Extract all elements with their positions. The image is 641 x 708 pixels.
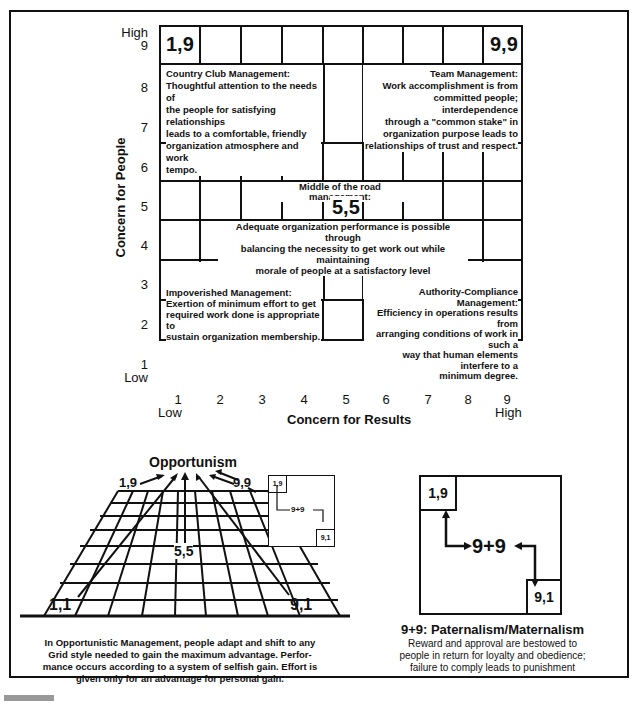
y-low-label: Low: [118, 370, 148, 385]
opportunism-label-1-1: 1,1: [49, 596, 71, 614]
team-description: Team Management: Work accomplishment is …: [364, 68, 518, 152]
corner-9-9: 9,9: [490, 33, 518, 56]
center-5-5: 5,5: [330, 196, 362, 219]
paternalism-title: 9+9: Paternalism/Maternalism: [385, 622, 600, 637]
x-high-label: High: [495, 405, 522, 420]
x-tick-8: 8: [458, 392, 478, 407]
y-tick-2: 2: [118, 317, 148, 332]
opportunism-title: Opportunism: [149, 454, 237, 470]
x-tick-2: 2: [210, 392, 230, 407]
y-tick-9: 9: [118, 38, 148, 53]
corner-1-9: 1,9: [166, 33, 194, 56]
opportunism-label-9-1: 9,1: [290, 596, 312, 614]
middle-road-description: Adequate organization performance is pos…: [218, 221, 468, 276]
y-axis-title: Concern for People: [113, 133, 128, 263]
paternalism-arrows: [419, 475, 564, 620]
x-low-label: Low: [158, 405, 182, 420]
x-tick-6: 6: [376, 392, 396, 407]
country-club-description: Country Club Management: Thoughtful atte…: [166, 68, 321, 176]
mini-arrows: [268, 475, 336, 547]
x-axis-title: Concern for Results: [287, 412, 411, 427]
x-tick-7: 7: [418, 392, 438, 407]
opportunism-label-5-5: 5,5: [174, 543, 193, 559]
x-tick-3: 3: [252, 392, 272, 407]
figure-label-fragment: [4, 695, 54, 701]
x-tick-5: 5: [336, 392, 356, 407]
opportunism-label-9-9: 9,9: [233, 475, 251, 490]
impoverished-description: Impoverished Management: Exertion of min…: [166, 287, 321, 342]
authority-compliance-description: Authority-Compliance Management: Efficie…: [364, 287, 518, 382]
x-tick-4: 4: [294, 392, 314, 407]
paternalism-caption: Reward and approval are bestowed to peop…: [385, 638, 600, 674]
opportunism-label-1-9: 1,9: [119, 475, 137, 490]
opportunism-caption: In Opportunistic Management, people adap…: [30, 637, 330, 685]
y-tick-3: 3: [118, 277, 148, 292]
y-tick-8: 8: [118, 80, 148, 95]
